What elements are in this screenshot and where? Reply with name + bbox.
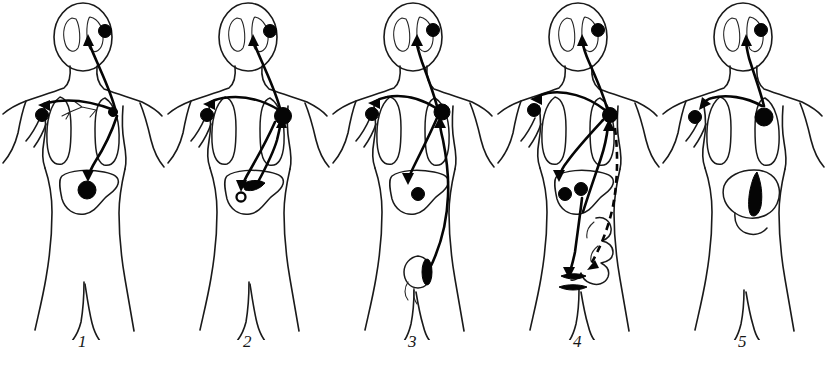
panel-5[interactable]: 5 <box>660 0 825 366</box>
stomach-primary-tumour-marker <box>749 172 762 216</box>
shoulder-metastasis-marker <box>36 109 49 122</box>
shoulder-metastasis-marker <box>366 108 379 121</box>
left-body-side <box>695 168 712 330</box>
panel-4-caption: 4 <box>495 332 660 352</box>
brain-left-hemisphere <box>394 18 410 51</box>
arrow-lung-to-liver-secondary <box>243 122 275 185</box>
neck-left-contour <box>663 66 730 114</box>
right-torso-upper <box>782 106 786 169</box>
brain-left-hemisphere <box>229 18 245 51</box>
brain-metastasis-marker <box>264 25 277 38</box>
arrow-testis-to-lung <box>429 123 448 270</box>
lung-metastasis-marker <box>434 104 450 120</box>
liver-metastasis-medial-marker <box>575 183 588 196</box>
left-body-side <box>200 168 217 330</box>
left-lung-outline <box>212 97 236 164</box>
panel-3-caption: 3 <box>330 332 495 352</box>
left-arm-inner <box>26 118 40 141</box>
panel-1[interactable]: 1 <box>0 0 165 366</box>
left-lung-outline <box>377 97 401 164</box>
left-lung-outline <box>47 97 71 164</box>
right-arm-outer <box>635 103 659 167</box>
shoulder-metastasis-marker <box>201 109 214 122</box>
panel-2[interactable]: 2 <box>165 0 330 366</box>
panel-1-illustration <box>0 0 165 340</box>
arrow-head-liver <box>82 170 94 182</box>
liver-secondary-deposit-marker <box>237 193 246 202</box>
panel-1-caption: 1 <box>0 332 165 352</box>
neck-left-contour <box>333 66 400 114</box>
left-lung-outline <box>707 97 731 164</box>
brain-left-hemisphere <box>64 18 80 51</box>
intestinal-primary-tumour-marker <box>561 274 586 279</box>
brain-metastasis-marker <box>592 24 605 37</box>
panel-2-illustration <box>165 0 330 340</box>
arrow-head-brain <box>577 34 588 46</box>
neck-left-contour <box>3 66 70 114</box>
panel-2-caption: 2 <box>165 332 330 352</box>
left-arm-inner <box>191 118 205 141</box>
panel-4-illustration <box>495 0 660 340</box>
lung-primary-tumour-marker <box>109 108 118 117</box>
arrow-lung-to-brain <box>746 40 764 106</box>
intestine-inner-folds <box>587 222 598 261</box>
shoulder-metastasis-marker <box>528 104 541 117</box>
shoulder-metastasis-marker <box>689 111 702 124</box>
left-arm-inner <box>521 118 535 141</box>
panel-5-illustration <box>660 0 825 340</box>
brain-left-hemisphere <box>724 18 740 51</box>
arrow-lung-to-shoulder <box>703 96 762 106</box>
arrow-head-brain <box>741 34 752 46</box>
panel-3-illustration <box>330 0 495 340</box>
left-arm-inner <box>356 118 370 141</box>
metastasis-figure: 1 <box>0 0 825 366</box>
arrow-head-brain <box>83 34 94 46</box>
right-body-side <box>779 169 794 331</box>
liver-metastasis-marker <box>412 188 425 201</box>
brain-left-hemisphere <box>559 18 575 51</box>
right-torso-upper <box>452 106 456 169</box>
left-torso-upper <box>703 106 706 168</box>
brain-metastasis-marker <box>427 24 440 37</box>
neck-right-contour <box>262 66 327 116</box>
arrow-intestine-to-liver <box>570 198 582 272</box>
right-body-side <box>284 169 299 331</box>
panel-5-caption: 5 <box>660 332 825 352</box>
right-arm-outer <box>470 103 494 167</box>
arrow-head-brain <box>248 34 259 46</box>
lung-metastasis-marker <box>603 108 618 123</box>
intestinal-primary-tumour-marker-lower <box>559 285 587 290</box>
lung-metastasis-marker <box>275 108 292 125</box>
liver-metastasis-lateral-marker <box>559 188 572 201</box>
arrow-head-liver <box>402 173 414 185</box>
right-arm-outer <box>800 103 824 167</box>
left-body-side <box>530 168 547 330</box>
arrow-head-brain <box>411 34 423 46</box>
liver-outline <box>225 170 284 214</box>
brain-metastasis-marker <box>99 25 112 38</box>
testicular-primary-tumour-marker <box>422 259 432 285</box>
right-arm-outer <box>305 103 329 167</box>
panel-3[interactable]: 3 <box>330 0 495 366</box>
right-body-side <box>449 169 464 331</box>
liver-metastasis-marker <box>78 181 96 199</box>
arrow-lung-to-brain <box>88 40 116 112</box>
left-lung-outline <box>542 97 566 164</box>
lung-metastasis-marker <box>755 108 773 126</box>
right-arm-outer <box>140 103 164 167</box>
brain-metastasis-marker <box>755 24 768 37</box>
left-body-side <box>365 168 382 330</box>
neck-left-contour <box>168 66 235 114</box>
arrow-lung-to-liver <box>89 116 117 175</box>
right-torso-upper <box>122 106 126 169</box>
left-body-side <box>35 168 52 330</box>
right-body-side <box>119 169 134 331</box>
panel-4[interactable]: 4 <box>495 0 660 366</box>
arrow-lung-to-liver <box>409 118 437 178</box>
